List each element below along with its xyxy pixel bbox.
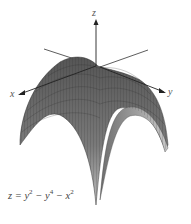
x-axis-label: x xyxy=(10,89,14,99)
eq-sign: = xyxy=(12,190,24,201)
eq-minus2: − xyxy=(53,190,65,201)
eq-power3: 2 xyxy=(70,188,74,196)
eq-minus1: − xyxy=(33,190,45,201)
surface-plot-figure: z x y z = y2 − y4 − x2 xyxy=(0,0,191,224)
surface-mesh xyxy=(20,57,168,205)
y-axis-back xyxy=(100,50,148,67)
x-axis-arrowhead xyxy=(18,90,25,95)
y-axis-label: y xyxy=(168,87,172,97)
z-axis-label: z xyxy=(92,8,96,18)
y-axis-arrowhead xyxy=(159,88,166,93)
equation-label: z = y2 − y4 − x2 xyxy=(8,188,74,201)
z-axis-arrowhead xyxy=(94,19,99,25)
